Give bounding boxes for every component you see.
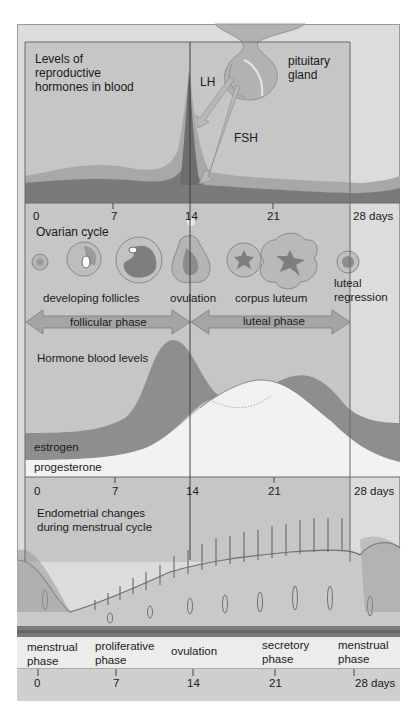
ovulation-label: ovulation <box>170 291 216 305</box>
pituitary-label: pituitary gland <box>288 54 330 82</box>
axis-top-day-7: 7 <box>111 210 117 222</box>
axis-mid-day-21: 21 <box>268 485 281 497</box>
estrogen-label: estrogen <box>34 440 79 454</box>
phase-ovulation: ovulation <box>171 644 217 658</box>
blood-levels-title: Hormone blood levels <box>37 351 148 365</box>
axis-mid-day-14: 14 <box>186 485 199 497</box>
phase-menstrual-end: menstrual phase <box>338 638 389 666</box>
axis-bottom-day-28: 28 days <box>355 677 395 689</box>
axis-top-day-0: 0 <box>33 210 39 222</box>
ovarian-cycle-title: Ovarian cycle <box>36 225 109 239</box>
phase-menstrual-start: menstrual phase <box>27 640 78 668</box>
follicular-phase-label: follicular phase <box>70 315 147 329</box>
axis-mid-day-7: 7 <box>112 485 118 497</box>
developing-follicles-label: developing follicles <box>43 291 140 305</box>
axis-mid-day-0: 0 <box>34 485 40 497</box>
axis-bottom-day-14: 14 <box>187 677 200 689</box>
axis-mid-day-28: 28 days <box>354 485 394 497</box>
axis-top-day-28: 28 days <box>353 210 393 222</box>
fsh-label: FSH <box>234 131 258 145</box>
axis-bottom-day-21: 21 <box>269 677 282 689</box>
axis-bottom-day-0: 0 <box>34 677 40 689</box>
axis-bottom-day-7: 7 <box>113 677 119 689</box>
progesterone-label: progesterone <box>34 460 102 474</box>
lh-label: LH <box>200 75 215 89</box>
axis-top-day-14: 14 <box>185 210 198 222</box>
phase-proliferative: proliferative phase <box>95 639 154 667</box>
luteal-regression-label: luteal regression <box>334 276 388 304</box>
luteal-phase-label: luteal phase <box>243 314 305 328</box>
endometrial-title: Endometrial changes during menstrual cyc… <box>37 506 152 534</box>
axis-top-day-21: 21 <box>267 210 280 222</box>
corpus-luteum-label: corpus luteum <box>235 291 307 305</box>
hormones-title: Levels of reproductive hormones in blood <box>35 52 134 94</box>
phase-secretory: secretory phase <box>262 638 309 666</box>
